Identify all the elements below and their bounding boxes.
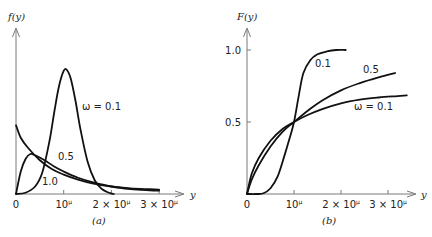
panel-b-label: (b) xyxy=(322,215,336,226)
panel-a-xtick-label: 2 × 10μ xyxy=(93,198,131,210)
panel-a-curve-label: ω = 0.1 xyxy=(82,101,121,112)
panel-b-ytick-label: 1.0 xyxy=(225,45,241,56)
panel-b-curve-0-5 xyxy=(247,73,395,194)
panel-b: F(y) y 010μ2 × 10μ3 × 10μ0.51.0 0.10.5ω … xyxy=(225,11,427,226)
panel-b-ytick-label: 0.5 xyxy=(225,117,241,128)
panel-b-xtick-label: 0 xyxy=(244,199,250,210)
panel-b-xtick-label: 2 × 10μ xyxy=(322,198,360,210)
panel-b-curve-label: ω = 0.1 xyxy=(354,101,393,112)
panel-a-xtick-label: 0 xyxy=(13,199,19,210)
panel-a-xtick-label: 3 × 10μ xyxy=(140,198,178,210)
panel-b-curve-0-1 xyxy=(247,50,346,194)
panel-a: f(y) y 010μ2 × 10μ3 × 10μ ω = 0.10.51.0 … xyxy=(7,11,196,226)
panel-b-curve-label: 0.1 xyxy=(315,58,331,69)
panel-a-ylabel: f(y) xyxy=(7,11,25,22)
panel-a-xlabel: y xyxy=(189,189,196,200)
panel-b-xtick-label: 3 × 10μ xyxy=(369,198,407,210)
panel-a-label: (a) xyxy=(92,215,106,226)
panel-b-ylabel: F(y) xyxy=(236,11,257,22)
panel-b-curve-label: 0.5 xyxy=(363,64,379,75)
panel-a-xtick-label: 10μ xyxy=(55,198,72,210)
panel-a-curve-label: 1.0 xyxy=(42,176,58,187)
figure: f(y) y 010μ2 × 10μ3 × 10μ ω = 0.10.51.0 … xyxy=(0,0,432,237)
panel-a-curve-label: 0.5 xyxy=(58,151,74,162)
panel-b-xtick-label: 10μ xyxy=(286,198,303,210)
panel-b-xlabel: y xyxy=(420,189,427,200)
